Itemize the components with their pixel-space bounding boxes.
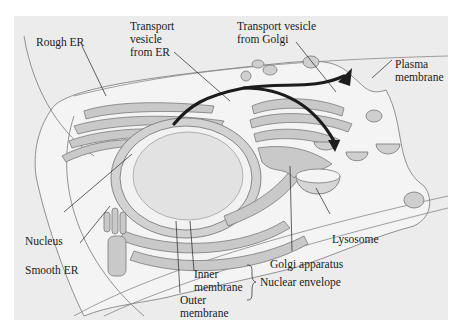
label-plasma-membrane-line1: Plasma	[395, 58, 428, 70]
label-golgi-apparatus: Golgi apparatus	[270, 258, 343, 270]
label-transport-vesicle-golgi-line1: Transport vesicle	[237, 20, 316, 32]
label-plasma-membrane-line2: membrane	[395, 71, 444, 83]
label-inner-membrane-line1: Inner	[194, 268, 218, 280]
label-lysosome: Lysosome	[332, 233, 379, 245]
label-transport-vesicle-er-line1: Transport	[130, 20, 174, 32]
label-inner-membrane-line2: membrane	[194, 281, 243, 293]
label-nucleus: Nucleus	[25, 235, 63, 247]
label-transport-vesicle-er-line3: from ER	[130, 46, 170, 58]
label-nuclear-envelope: Nuclear envelope	[260, 276, 341, 288]
label-transport-vesicle-golgi-line2: from Golgi	[237, 33, 288, 45]
label-smooth-er: Smooth ER	[25, 264, 78, 276]
label-rough-er: Rough ER	[36, 36, 84, 48]
label-outer-membrane-line2: membrane	[180, 307, 229, 319]
cell-illustration	[14, 16, 448, 320]
label-outer-membrane-line1: Outer	[180, 294, 206, 306]
label-transport-vesicle-er-line2: vesicle	[130, 33, 162, 45]
cell-diagram: Rough ER Transport vesicle from ER Trans…	[14, 16, 448, 320]
